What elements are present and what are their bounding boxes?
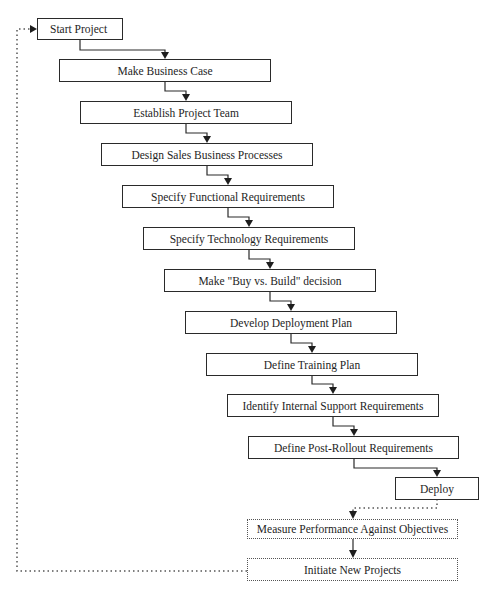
step-label: Make "Buy vs. Build" decision [198,275,341,287]
step-develop-deployment-plan: Develop Deployment Plan [185,311,397,334]
arrowhead-icon [287,304,295,311]
step-label: Define Training Plan [264,359,360,371]
step-label: Identify Internal Support Requirements [242,400,423,412]
arrowhead-icon [349,550,357,558]
step-label: Define Post-Rollout Requirements [274,442,433,454]
arrowhead-icon [350,429,358,436]
step-start-project: Start Project [37,18,123,40]
step-identify-internal-support: Identify Internal Support Requirements [227,394,439,417]
connector-training-to-internal-support [312,375,333,388]
arrowhead-icon [161,52,169,59]
flowchart-canvas: Start Project Make Business Case Establi… [0,0,493,599]
connector-buy-build-to-deployment-plan [270,291,291,305]
arrowhead-icon [329,387,337,394]
step-label: Make Business Case [117,65,212,77]
step-label: Initiate New Projects [304,564,401,576]
connector-post-rollout-to-deploy [354,458,437,471]
arrowhead-icon [349,511,357,519]
connector-internal-support-to-post-rollout [333,416,354,430]
arrowhead-icon [308,346,316,353]
arrowhead-icon [30,25,37,33]
step-label: Specify Functional Requirements [151,191,305,203]
step-label: Deploy [420,483,454,495]
step-measure-performance: Measure Performance Against Objectives [247,519,458,539]
step-label: Design Sales Business Processes [131,149,282,161]
step-establish-project-team: Establish Project Team [80,101,292,124]
connector-technology-to-buy-build [249,249,270,263]
connector-deploy-to-measure [353,499,437,512]
step-label: Measure Performance Against Objectives [257,523,448,535]
arrowhead-icon [245,220,253,227]
connector-functional-to-technology [228,207,249,221]
arrowhead-icon [182,94,190,101]
step-label: Start Project [50,23,107,35]
step-specify-technology-requirements: Specify Technology Requirements [143,227,355,250]
step-make-business-case: Make Business Case [59,59,271,82]
step-design-sales-processes: Design Sales Business Processes [101,143,313,166]
step-label: Develop Deployment Plan [230,317,352,329]
connector-business-case-to-project-team [165,81,186,95]
step-deploy: Deploy [395,477,479,500]
connector-lines [0,0,493,599]
step-label: Establish Project Team [133,107,239,119]
step-specify-functional-requirements: Specify Functional Requirements [122,185,334,208]
arrowhead-icon [266,262,274,269]
arrowhead-icon [224,178,232,185]
connector-project-team-to-sales-processes [186,123,207,137]
step-buy-vs-build-decision: Make "Buy vs. Build" decision [164,269,376,292]
connector-deployment-to-training [291,333,312,347]
connector-start-to-business-case [80,39,165,53]
step-define-post-rollout: Define Post-Rollout Requirements [248,436,459,459]
arrowhead-icon [203,136,211,143]
arrowhead-icon [433,470,441,477]
step-define-training-plan: Define Training Plan [206,353,418,376]
connector-sales-processes-to-functional-req [207,165,228,179]
step-label: Specify Technology Requirements [170,233,329,245]
step-initiate-new-projects: Initiate New Projects [247,558,458,581]
